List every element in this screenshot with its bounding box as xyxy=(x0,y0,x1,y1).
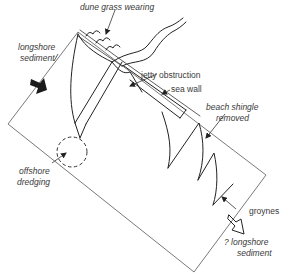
outgoing-sediment-arrow-icon xyxy=(228,215,244,234)
label-jetty: jetty obstruction xyxy=(140,70,201,80)
coast-frame xyxy=(8,32,266,272)
coastal-diagram: dune grass wearing longshore sediment je… xyxy=(0,0,285,279)
label-longshore-in-2: sediment xyxy=(20,53,55,63)
river-channel xyxy=(112,18,186,92)
jetty xyxy=(75,62,122,138)
label-offshore-2: dredging xyxy=(17,177,50,187)
label-q-longshore-2: sediment xyxy=(237,248,272,258)
label-longshore-in-1: longshore xyxy=(18,42,56,52)
label-q-longshore-1: ? longshore xyxy=(224,237,269,247)
label-shingle-1: beach shingle xyxy=(206,102,259,112)
label-shingle-2: removed xyxy=(216,113,249,123)
dredging-circle xyxy=(57,137,87,167)
label-offshore-1: offshore xyxy=(19,166,50,176)
label-groynes: groynes xyxy=(249,206,279,216)
label-sea-wall: sea wall xyxy=(171,84,202,94)
dune-wedge xyxy=(71,30,124,123)
groynes xyxy=(162,112,233,205)
label-dune-grass: dune grass wearing xyxy=(80,2,154,12)
